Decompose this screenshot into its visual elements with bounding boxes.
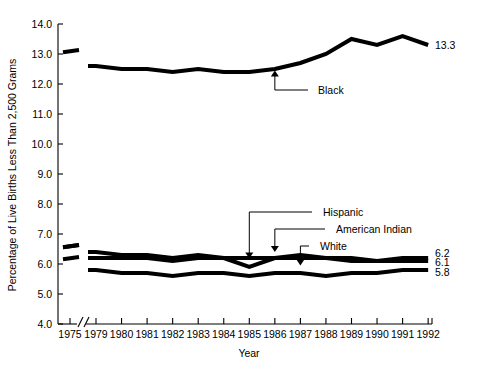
x-tick-label: 1992 bbox=[416, 328, 440, 340]
x-tick-label: 1991 bbox=[391, 328, 415, 340]
x-tick-label: 1984 bbox=[212, 328, 236, 340]
line-chart: 4.05.06.07.08.09.010.011.012.013.014.0 1… bbox=[0, 0, 477, 369]
x-tick-label: 1975 bbox=[58, 328, 82, 340]
y-tick-label: 13.0 bbox=[32, 48, 53, 60]
x-tick-label: 1981 bbox=[135, 328, 159, 340]
y-tick-label: 6.0 bbox=[37, 258, 52, 270]
x-tick-label: 1986 bbox=[263, 328, 287, 340]
series-black-line bbox=[88, 36, 428, 72]
series-lines bbox=[63, 36, 428, 276]
annotation-arrowhead bbox=[296, 260, 304, 266]
x-tick-label: 1988 bbox=[314, 328, 338, 340]
x-tick-label: 1980 bbox=[110, 328, 134, 340]
y-tick-label: 9.0 bbox=[37, 168, 52, 180]
x-tick-label: 1989 bbox=[340, 328, 364, 340]
x-axis: 1975197919801981198219831984198519861987… bbox=[58, 317, 440, 340]
annotations: BlackHispanicAmerican IndianWhite bbox=[245, 70, 412, 265]
annotation-white-label: White bbox=[320, 240, 347, 252]
end-label-white: 5.8 bbox=[435, 266, 450, 278]
annotation-arrowhead bbox=[271, 246, 279, 252]
series-american-indian-stub bbox=[63, 245, 79, 247]
annotation-hispanic-label: Hispanic bbox=[323, 206, 363, 218]
series-black-stub bbox=[63, 50, 79, 52]
y-tick-label: 7.0 bbox=[37, 228, 52, 240]
axis-break-mark bbox=[84, 317, 89, 327]
axis-break-mark bbox=[78, 317, 83, 327]
series-white-stub bbox=[63, 257, 79, 259]
x-tick-label: 1982 bbox=[161, 328, 185, 340]
y-tick-label: 8.0 bbox=[37, 198, 52, 210]
x-tick-label: 1983 bbox=[187, 328, 211, 340]
end-label-black: 13.3 bbox=[435, 39, 456, 51]
y-axis-title: Percentage of Live Births Less Than 2,50… bbox=[6, 59, 18, 292]
annotation-american-indian-label: American Indian bbox=[336, 223, 412, 235]
x-tick-label: 1987 bbox=[289, 328, 313, 340]
y-tick-label: 5.0 bbox=[37, 288, 52, 300]
series-white-line bbox=[88, 270, 428, 276]
y-tick-label: 4.0 bbox=[37, 318, 52, 330]
annotation-black-label: Black bbox=[318, 84, 344, 96]
y-tick-label: 14.0 bbox=[32, 18, 53, 30]
x-axis-title: Year bbox=[238, 347, 260, 359]
y-tick-label: 12.0 bbox=[32, 78, 53, 90]
end-value-labels: 13.36.26.15.8 bbox=[435, 39, 456, 278]
y-axis: 4.05.06.07.08.09.010.011.012.013.014.0 bbox=[32, 18, 63, 330]
x-tick-label: 1979 bbox=[84, 328, 108, 340]
y-tick-label: 11.0 bbox=[32, 108, 52, 120]
x-tick-label: 1985 bbox=[238, 328, 262, 340]
series-american-indian-line bbox=[88, 258, 428, 261]
y-tick-label: 10.0 bbox=[32, 138, 53, 150]
x-tick-label: 1990 bbox=[365, 328, 389, 340]
chart-container: 4.05.06.07.08.09.010.011.012.013.014.0 1… bbox=[0, 0, 477, 369]
